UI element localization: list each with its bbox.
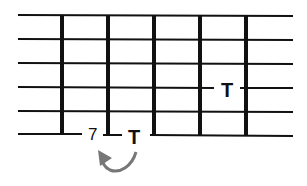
fret-number-label: 7 [88,126,97,143]
tap-marker-high: T [221,80,233,100]
frets [62,15,246,135]
tap-marker-low: T [128,127,140,147]
curved-arrow-icon [98,150,136,171]
string-4-left [18,87,214,88]
string-6-c [150,135,293,136]
fretboard [0,0,307,186]
